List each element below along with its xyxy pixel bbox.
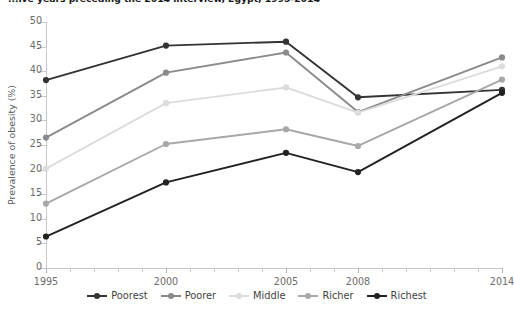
legend-label: Poorest xyxy=(111,290,147,301)
data-point xyxy=(163,43,169,49)
x-minor-tick xyxy=(70,268,71,272)
legend-marker-icon xyxy=(87,291,107,300)
data-point xyxy=(499,54,505,60)
legend-label: Richest xyxy=(391,290,427,301)
series-line xyxy=(46,53,502,138)
y-tick-label: 50 xyxy=(30,15,42,26)
data-point xyxy=(43,233,49,239)
series-line xyxy=(46,80,502,204)
data-point xyxy=(283,49,289,55)
legend-marker-icon xyxy=(229,291,249,300)
x-tick-label: 2000 xyxy=(154,276,178,287)
legend-marker-icon xyxy=(367,291,387,300)
x-tick-label: 2014 xyxy=(490,276,514,287)
data-point xyxy=(163,141,169,147)
data-point xyxy=(355,109,361,115)
legend-label: Poorer xyxy=(185,290,216,301)
y-axis-title: Prevalence of obesity (%) xyxy=(6,22,20,268)
legend-item-poorest[interactable]: Poorest xyxy=(87,290,147,301)
x-axis-line xyxy=(46,268,502,269)
y-tick-label: 5 xyxy=(36,236,42,247)
legend-item-poorer[interactable]: Poorer xyxy=(161,290,216,301)
data-point xyxy=(283,84,289,90)
x-minor-tick xyxy=(118,268,119,272)
series-poorest xyxy=(43,39,505,101)
x-minor-tick xyxy=(454,268,455,272)
legend-marker-icon xyxy=(298,291,318,300)
y-tick-label: 0 xyxy=(36,261,42,272)
legend-marker-icon xyxy=(161,291,181,300)
x-minor-tick xyxy=(430,268,431,272)
y-tick-label: 40 xyxy=(30,64,42,75)
x-minor-tick xyxy=(478,268,479,272)
series-line xyxy=(46,93,502,237)
x-minor-tick xyxy=(142,268,143,272)
x-minor-tick xyxy=(238,268,239,272)
y-tick-label: 25 xyxy=(30,138,42,149)
data-point xyxy=(43,166,49,172)
y-tick-label: 20 xyxy=(30,163,42,174)
x-minor-tick xyxy=(334,268,335,272)
x-minor-tick xyxy=(406,268,407,272)
y-tick-label: 35 xyxy=(30,89,42,100)
legend-item-richest[interactable]: Richest xyxy=(367,290,427,301)
x-major-tick xyxy=(358,268,359,273)
series-richest xyxy=(43,90,505,240)
y-tick-label: 10 xyxy=(30,212,42,223)
chart-legend: PoorestPoorerMiddleRicherRichest xyxy=(0,290,514,301)
data-point xyxy=(499,63,505,69)
x-tick-label: 1995 xyxy=(34,276,58,287)
data-point xyxy=(355,169,361,175)
x-major-tick xyxy=(46,268,47,273)
data-point xyxy=(43,77,49,83)
x-minor-tick xyxy=(262,268,263,272)
x-minor-tick xyxy=(94,268,95,272)
x-minor-tick xyxy=(190,268,191,272)
legend-label: Richer xyxy=(322,290,353,301)
x-tick-label: 2008 xyxy=(346,276,370,287)
series-line xyxy=(46,66,502,168)
x-major-tick xyxy=(166,268,167,273)
x-minor-tick xyxy=(382,268,383,272)
legend-item-richer[interactable]: Richer xyxy=(298,290,353,301)
y-tick-label: 45 xyxy=(30,40,42,51)
y-tick-label: 30 xyxy=(30,113,42,124)
series-poorer xyxy=(43,49,505,140)
data-point xyxy=(355,143,361,149)
data-point xyxy=(283,126,289,132)
data-point xyxy=(163,179,169,185)
x-major-tick xyxy=(502,268,503,273)
series-lines xyxy=(46,22,502,268)
legend-label: Middle xyxy=(253,290,285,301)
data-point xyxy=(283,39,289,45)
x-tick-label: 2005 xyxy=(274,276,298,287)
data-point xyxy=(283,150,289,156)
x-minor-tick xyxy=(214,268,215,272)
data-point xyxy=(355,94,361,100)
data-point xyxy=(499,90,505,96)
plot-area: 05101520253035404550 1995200020052008201… xyxy=(46,22,502,268)
data-point xyxy=(43,135,49,141)
x-major-tick xyxy=(286,268,287,273)
series-richer xyxy=(43,76,505,206)
data-point xyxy=(163,100,169,106)
data-point xyxy=(43,200,49,206)
y-tick-label: 15 xyxy=(30,187,42,198)
legend-item-middle[interactable]: Middle xyxy=(229,290,285,301)
data-point xyxy=(499,76,505,82)
chart-title: ...ive years preceding the 2014 intervie… xyxy=(8,0,508,4)
x-minor-tick xyxy=(310,268,311,272)
data-point xyxy=(163,70,169,76)
obesity-prevalence-line-chart: ...ive years preceding the 2014 intervie… xyxy=(0,0,514,312)
